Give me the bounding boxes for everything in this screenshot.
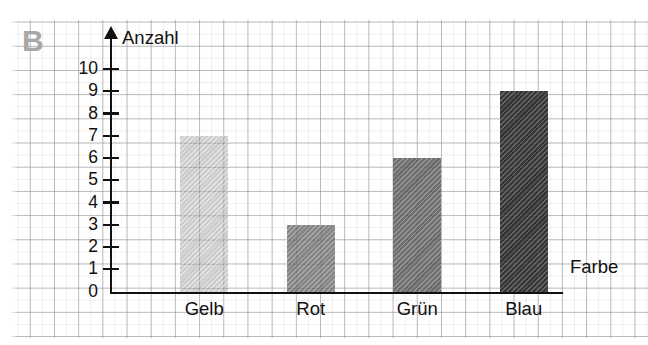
plot-area: Anzahl Farbe 012345678910 GelbRotGrünBla…: [0, 0, 648, 345]
bar: [287, 225, 335, 292]
bar-chart-figure: B Anzahl Farbe 012345678910 GelbRotGrünB…: [0, 0, 648, 345]
bar-series: [0, 0, 648, 292]
x-category-label: Grün: [373, 300, 461, 319]
bar: [500, 91, 548, 291]
bar-hatch-texture: [180, 136, 228, 292]
bar-hatch-texture: [393, 158, 441, 292]
bar-hatch-texture: [500, 91, 548, 291]
bar: [393, 158, 441, 292]
x-axis-line: [110, 292, 563, 294]
bar-hatch-texture: [287, 225, 335, 292]
x-category-label: Rot: [267, 300, 355, 319]
x-category-label: Gelb: [160, 300, 248, 319]
bar: [180, 136, 228, 292]
x-category-label: Blau: [480, 300, 568, 319]
